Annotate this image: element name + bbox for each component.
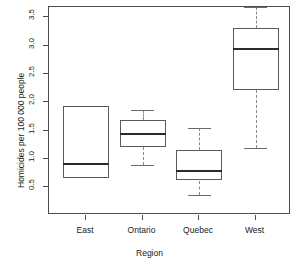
y-tick-label-1.5: 1.5	[27, 119, 36, 137]
y-tick-label-3.0: 3.0	[27, 34, 36, 52]
whisker-lower-west	[256, 90, 257, 148]
whisker-cap-upper-ontario	[131, 110, 154, 111]
whisker-cap-lower-west	[244, 148, 267, 149]
x-axis-title: Region	[0, 248, 299, 258]
y-tick-label-1.0: 1.0	[27, 147, 36, 165]
y-tick-label-3.5: 3.5	[27, 6, 36, 24]
median-west	[233, 48, 279, 50]
whisker-cap-upper-quebec	[188, 128, 211, 129]
x-tick-east	[85, 215, 86, 220]
x-tick-ontario	[142, 215, 143, 220]
whisker-upper-quebec	[199, 128, 200, 150]
whisker-upper-west	[256, 7, 257, 28]
box-west	[233, 28, 279, 90]
whisker-lower-quebec	[199, 181, 200, 195]
whisker-lower-ontario	[143, 147, 144, 165]
box-east	[63, 106, 109, 177]
median-quebec	[176, 170, 222, 172]
y-tick-label-0.5: 0.5	[27, 176, 36, 194]
x-tick-west	[255, 215, 256, 220]
whisker-cap-lower-quebec	[188, 195, 211, 196]
whisker-upper-ontario	[143, 110, 144, 121]
x-tick-label-west: West	[215, 225, 295, 235]
whisker-cap-lower-ontario	[131, 165, 154, 166]
plot-area	[48, 6, 290, 214]
median-ontario	[120, 133, 166, 135]
whisker-cap-upper-west	[244, 7, 267, 8]
x-tick-quebec	[198, 215, 199, 220]
box-quebec	[176, 150, 222, 181]
y-axis-title: Homicides per 100 000 people	[16, 73, 26, 188]
median-east	[63, 163, 109, 165]
y-tick-label-2.5: 2.5	[27, 62, 36, 80]
boxplot-chart: Homicides per 100 000 people 0.51.01.52.…	[0, 0, 299, 267]
y-tick-label-2.0: 2.0	[27, 91, 36, 109]
